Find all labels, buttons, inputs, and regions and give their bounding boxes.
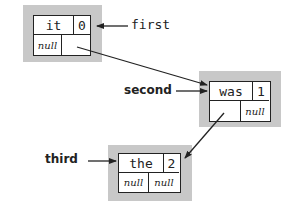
arrows-layer bbox=[0, 0, 307, 209]
arrow-node-it-to-was bbox=[77, 47, 207, 85]
arrow-node-was-to-the bbox=[185, 113, 224, 158]
